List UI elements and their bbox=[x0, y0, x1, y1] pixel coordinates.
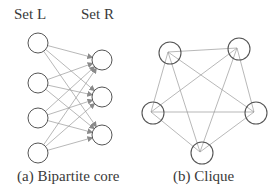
left-node bbox=[28, 33, 48, 53]
left-node bbox=[28, 108, 48, 128]
left-node bbox=[28, 73, 48, 93]
directed-edge bbox=[48, 100, 93, 115]
directed-edge bbox=[48, 85, 92, 95]
clique-edge bbox=[168, 52, 200, 152]
directed-edge bbox=[46, 49, 95, 90]
right-node bbox=[92, 50, 112, 70]
caption-bipartite-core: (a) Bipartite core bbox=[17, 168, 119, 185]
clique-edge bbox=[168, 52, 254, 112]
set-l-label: Set L bbox=[14, 6, 46, 23]
right-node bbox=[92, 87, 112, 107]
clique-node bbox=[245, 102, 267, 124]
clique-edge bbox=[151, 52, 168, 112]
directed-edge bbox=[46, 89, 94, 128]
clique-edge bbox=[151, 48, 237, 112]
set-r-label: Set R bbox=[81, 6, 114, 23]
bipartite-edges bbox=[44, 46, 97, 151]
caption-clique: (b) Clique bbox=[173, 168, 234, 185]
clique-edge bbox=[151, 112, 200, 152]
directed-edge bbox=[48, 138, 93, 151]
directed-edge bbox=[48, 121, 93, 133]
right-node bbox=[92, 125, 112, 145]
clique-edge bbox=[168, 48, 237, 52]
clique-node bbox=[191, 142, 213, 164]
directed-edge bbox=[45, 67, 94, 112]
directed-edge bbox=[44, 68, 97, 145]
clique-edge bbox=[200, 48, 237, 152]
left-node bbox=[28, 143, 48, 163]
directed-edge bbox=[46, 104, 95, 147]
clique-nodes bbox=[142, 38, 267, 164]
diagram-canvas bbox=[0, 0, 279, 193]
directed-edge bbox=[48, 46, 93, 58]
bipartite-nodes bbox=[28, 33, 112, 163]
